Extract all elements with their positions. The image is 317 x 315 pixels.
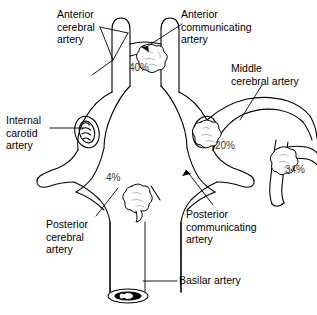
label-posterior-cerebral-artery: Posterior cerebral artery <box>46 218 108 256</box>
internal-carotid-artery-left <box>71 114 102 151</box>
label-middle-cerebral-artery: Middle cerebral artery <box>231 62 315 87</box>
basilar-artery <box>108 222 181 303</box>
posterior-cerebral-artery-right <box>187 148 254 192</box>
percent-anterior-communicating: 40% <box>129 62 149 73</box>
circle-of-willis-diagram: Anterior cerebral artery Anterior commun… <box>0 0 317 315</box>
label-anterior-cerebral-artery: Anterior cerebral artery <box>57 8 115 46</box>
label-internal-carotid-artery: Internal carotid artery <box>6 114 62 152</box>
percent-posterior-communicating: 20% <box>215 140 235 151</box>
percent-middle-cerebral: 34% <box>285 164 305 175</box>
label-posterior-communicating-artery: Posterior communicating artery <box>186 208 264 246</box>
label-basilar-artery: Basilar artery <box>179 274 269 287</box>
label-anterior-communicating-artery: Anterior communicating artery <box>181 8 259 46</box>
percent-basilar-tip: 4% <box>106 172 120 183</box>
aneurysm-basilar <box>123 184 153 222</box>
posterior-cerebral-artery-left <box>37 148 104 192</box>
middle-cerebral-artery <box>207 97 317 206</box>
vessel-illustration <box>0 0 317 315</box>
